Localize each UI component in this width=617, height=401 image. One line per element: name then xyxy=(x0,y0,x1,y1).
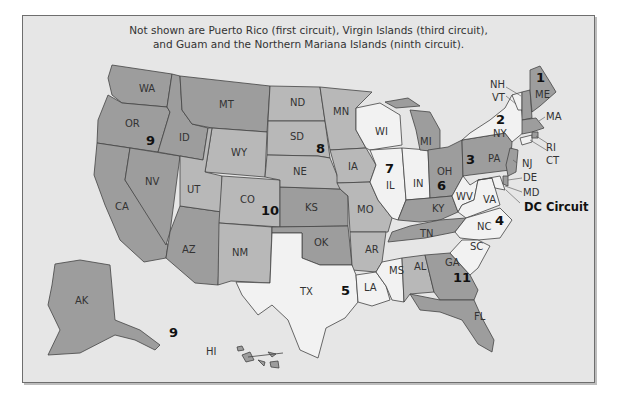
label-mi: MI xyxy=(420,136,432,147)
label-vt: VT xyxy=(492,92,506,103)
label-ne: NE xyxy=(293,166,307,177)
label-in: IN xyxy=(413,178,423,189)
label-sd: SD xyxy=(290,131,304,142)
label-ny: NY xyxy=(493,128,507,139)
label-or: OR xyxy=(125,118,140,129)
label-wv: WV xyxy=(456,191,473,202)
label-ak: AK xyxy=(75,295,89,306)
label-pa: PA xyxy=(488,153,500,164)
label-ok: OK xyxy=(314,237,329,248)
label-ar: AR xyxy=(365,244,379,255)
circuit-5: 5 xyxy=(341,283,350,298)
circuit-1: 1 xyxy=(536,70,545,85)
label-nc: NC xyxy=(477,221,491,232)
circuit-3: 3 xyxy=(466,152,475,167)
circuit-8: 8 xyxy=(316,141,325,156)
state-ky xyxy=(398,196,458,222)
state-fl xyxy=(410,294,494,352)
label-me: ME xyxy=(535,89,550,100)
label-nd: ND xyxy=(290,97,305,108)
label-wi: WI xyxy=(375,126,388,137)
label-ky: KY xyxy=(432,203,445,214)
label-nm: NM xyxy=(232,247,248,258)
label-id: ID xyxy=(179,132,190,143)
label-ks: KS xyxy=(305,202,318,213)
label-mo: MO xyxy=(357,204,374,215)
label-ma: MA xyxy=(546,111,562,122)
label-la: LA xyxy=(364,282,377,293)
label-de: DE xyxy=(523,172,537,183)
state-in xyxy=(402,148,430,200)
label-nj: NJ xyxy=(522,158,532,169)
circuit-9: 9 xyxy=(146,133,155,148)
circuit-6: 6 xyxy=(437,178,446,193)
label-hi: HI xyxy=(206,346,216,357)
label-ga: GA xyxy=(445,257,460,268)
label-wa: WA xyxy=(139,83,155,94)
label-ca: CA xyxy=(115,201,129,212)
label-tn: TN xyxy=(419,228,434,239)
label-sc: SC xyxy=(470,241,483,252)
circuit-9-hawaii: 9 xyxy=(169,325,178,340)
circuit-4: 4 xyxy=(495,213,504,228)
label-az: AZ xyxy=(182,244,196,255)
state-de xyxy=(503,176,508,186)
label-tx: TX xyxy=(299,286,313,297)
circuit-11: 11 xyxy=(453,270,471,285)
state-ri xyxy=(532,132,538,138)
label-mt: MT xyxy=(219,99,235,110)
label-mn: MN xyxy=(333,106,349,117)
state-hi xyxy=(237,346,283,368)
label-ri: RI xyxy=(546,142,556,153)
label-wy: WY xyxy=(231,147,248,158)
dc-circuit-label: DC Circuit xyxy=(524,200,589,214)
label-oh: OH xyxy=(437,166,452,177)
us-circuits-map: WA OR CA NV ID MT WY UT AZ CO NM ND SD N… xyxy=(0,0,617,401)
label-va: VA xyxy=(483,194,496,205)
circuit-2: 2 xyxy=(496,112,505,127)
label-ms: MS xyxy=(389,265,404,276)
label-nh: NH xyxy=(490,79,505,90)
label-md: MD xyxy=(523,187,540,198)
label-ut: UT xyxy=(187,184,201,195)
label-ia: IA xyxy=(348,161,358,172)
label-al: AL xyxy=(414,261,427,272)
label-il: IL xyxy=(386,180,395,191)
label-nv: NV xyxy=(145,176,159,187)
state-ak xyxy=(48,260,160,355)
label-fl: FL xyxy=(474,311,486,322)
circuit-7: 7 xyxy=(385,161,394,176)
label-ct: CT xyxy=(546,155,560,166)
label-co: CO xyxy=(240,194,255,205)
circuit-10: 10 xyxy=(261,203,279,218)
